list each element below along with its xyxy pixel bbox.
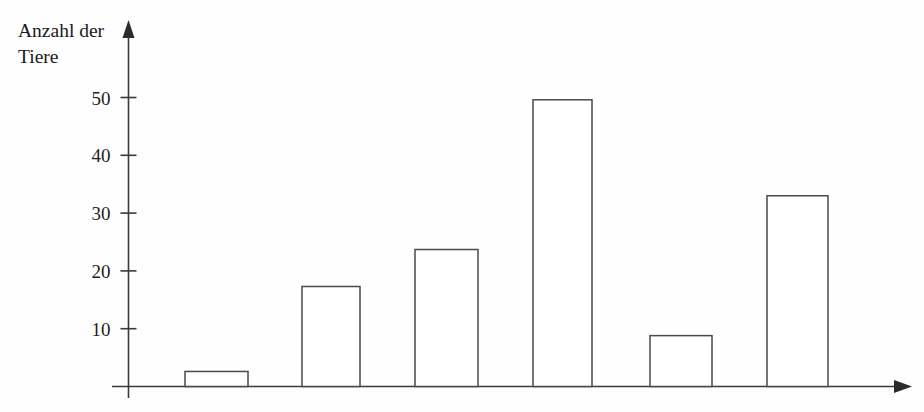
y-axis xyxy=(123,20,135,398)
bar xyxy=(185,371,248,386)
y-tick-label: 20 xyxy=(92,261,111,282)
y-axis-ticks: 1020304050 xyxy=(92,88,137,340)
y-tick-label: 50 xyxy=(92,88,111,109)
y-tick-label: 30 xyxy=(92,203,111,224)
bar-series xyxy=(185,100,828,387)
bar-chart: 1020304050 xyxy=(0,0,924,412)
bar xyxy=(533,100,592,387)
x-axis-arrow-icon xyxy=(894,380,912,393)
bar xyxy=(415,250,478,387)
y-tick-label: 10 xyxy=(92,319,111,340)
bar xyxy=(767,196,828,387)
y-axis-arrow-icon xyxy=(123,20,135,38)
y-tick-label: 40 xyxy=(92,145,111,166)
bar xyxy=(302,287,360,387)
chart-page: Anzahl der Tiere 1020304050 xyxy=(0,0,924,412)
bar xyxy=(650,336,712,387)
